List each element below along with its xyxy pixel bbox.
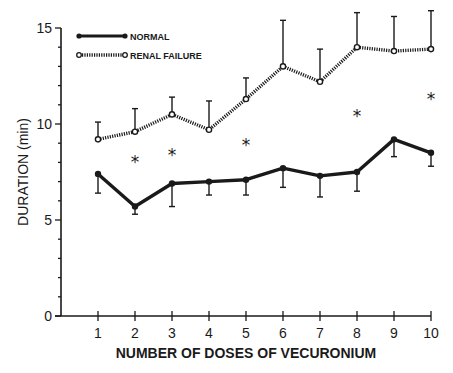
x-tick-label: 7 [316,325,324,341]
x-tick-label: 6 [279,325,287,341]
filled-circle-marker [317,173,323,179]
x-tick-label: 9 [390,325,398,341]
x-axis-title: NUMBER OF DOSES OF VECURONIUM [116,345,377,361]
chart: 05101512345678910 ***** NORMAL RENAL FAI… [0,0,453,373]
open-circle-marker [243,96,248,101]
normal-line [98,139,431,206]
y-tick-label: 5 [44,212,52,228]
legend-normal-marker [76,33,81,38]
x-tick-label: 10 [423,325,439,341]
open-circle-marker [354,45,359,50]
asterisk-significance-marker: * [242,135,251,155]
filled-circle-marker [354,169,360,175]
y-tick-label: 0 [44,308,52,324]
y-axis-title: DURATION (min) [15,118,31,226]
open-circle-marker [317,79,322,84]
x-tick-label: 8 [353,325,361,341]
filled-circle-marker [169,180,175,186]
legend: NORMAL RENAL FAILURE [76,32,201,61]
legend-renal-label: RENAL FAILURE [130,51,202,61]
significance-markers: ***** [131,89,436,172]
x-tick-label: 1 [94,325,102,341]
x-tick-label: 2 [131,325,139,341]
filled-circle-marker [391,136,397,142]
legend-normal-marker [122,33,127,38]
asterisk-significance-marker: * [131,152,140,172]
open-circle-marker [206,127,211,132]
asterisk-significance-marker: * [168,145,177,165]
x-tick-label: 4 [205,325,213,341]
legend-renal-marker [123,53,128,58]
asterisk-significance-marker: * [353,106,362,126]
x-tick-label: 5 [242,325,250,341]
open-circle-marker [169,112,174,117]
open-circle-marker [428,47,433,52]
open-circle-marker [280,64,285,69]
open-circle-marker [391,48,396,53]
y-tick-label: 10 [36,116,52,132]
filled-circle-marker [280,165,286,171]
renal-failure-line [98,47,431,139]
filled-circle-marker [428,150,434,156]
y-tick-label: 15 [36,20,52,36]
filled-circle-marker [95,171,101,177]
asterisk-significance-marker: * [427,89,436,109]
filled-circle-marker [132,203,138,209]
x-tick-label: 3 [168,325,176,341]
filled-circle-marker [243,176,249,182]
legend-normal-label: NORMAL [130,32,170,42]
series-renal-failure [95,11,434,142]
legend-renal-marker [77,53,82,58]
series-normal [95,136,434,214]
open-circle-marker [132,129,137,134]
line-chart-svg: 05101512345678910 ***** NORMAL RENAL FAI… [0,0,453,373]
filled-circle-marker [206,178,212,184]
open-circle-marker [95,137,100,142]
